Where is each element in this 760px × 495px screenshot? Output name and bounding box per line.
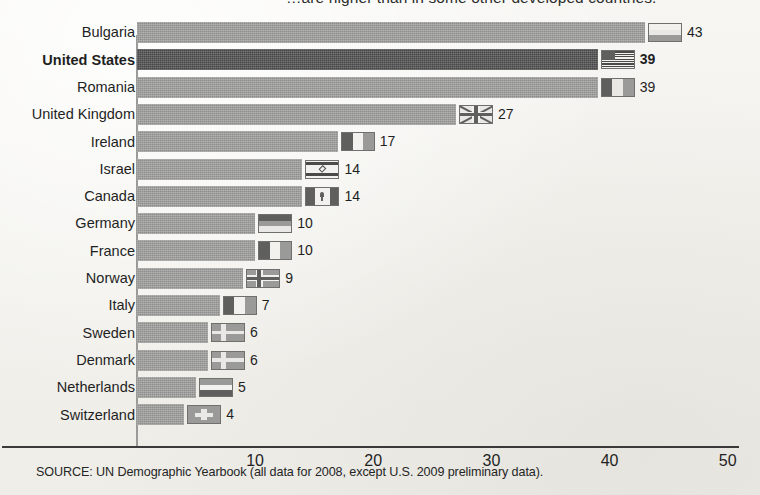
bar-value-label: 27 xyxy=(498,107,514,121)
bar-value-label: 7 xyxy=(262,298,270,312)
bar-row: Denmark6 xyxy=(0,347,760,374)
bar-value-label: 43 xyxy=(687,25,703,39)
bar xyxy=(137,22,645,43)
bar-value-label: 10 xyxy=(297,216,313,230)
bar xyxy=(137,104,456,125)
bar xyxy=(137,404,184,425)
bar xyxy=(137,213,255,234)
bar xyxy=(137,322,208,343)
headline-strip: …are higher than in some other developed… xyxy=(0,0,760,16)
bar-row: Norway9 xyxy=(0,265,760,292)
bar-row-label: Romania xyxy=(0,80,135,95)
bar-row-label: United Kingdom xyxy=(0,107,135,122)
flag-france-icon xyxy=(258,241,292,260)
bar xyxy=(137,240,255,261)
flag-united-kingdom-icon xyxy=(459,105,493,124)
flag-sweden-icon xyxy=(211,323,245,342)
bar-value-label: 5 xyxy=(238,380,246,394)
bar-row-label: Bulgaria xyxy=(0,25,135,40)
bar-row: Israel14 xyxy=(0,156,760,183)
bar xyxy=(137,295,220,316)
bar-value-label: 6 xyxy=(250,353,258,367)
bar xyxy=(137,159,302,180)
bar-value-label: 14 xyxy=(344,162,360,176)
flag-norway-icon xyxy=(246,269,280,288)
bar-row: United States39 xyxy=(0,46,760,73)
x-axis-tick-label: 40 xyxy=(588,452,632,470)
bar-row: Italy7 xyxy=(0,292,760,319)
bar-row-label: Denmark xyxy=(0,353,135,368)
flag-italy-icon xyxy=(223,296,257,315)
bar-row: Germany10 xyxy=(0,210,760,237)
bar-row-label: Norway xyxy=(0,271,135,286)
bar-value-label: 39 xyxy=(640,52,656,66)
bar-value-label: 39 xyxy=(640,80,656,94)
bar-row: United Kingdom27 xyxy=(0,101,760,128)
bar-row-label: Netherlands xyxy=(0,380,135,395)
flag-germany-icon xyxy=(258,214,292,233)
bar xyxy=(137,268,243,289)
bar-row: Netherlands5 xyxy=(0,374,760,401)
bar-value-label: 4 xyxy=(226,407,234,421)
bar-row: Switzerland4 xyxy=(0,401,760,428)
bar xyxy=(137,131,338,152)
bar xyxy=(137,350,208,371)
bar-row-label: United States xyxy=(0,53,135,68)
x-axis-line xyxy=(2,446,739,448)
flag-netherlands-icon xyxy=(199,378,233,397)
bar-row: Sweden6 xyxy=(0,319,760,346)
bar-row-label: Sweden xyxy=(0,326,135,341)
bar-value-label: 6 xyxy=(250,325,258,339)
chart-headline: …are higher than in some other developed… xyxy=(286,0,656,7)
bar-value-label: 17 xyxy=(380,134,396,148)
flag-bulgaria-icon xyxy=(648,23,682,42)
flag-switzerland-icon xyxy=(187,405,221,424)
bar-row-label: France xyxy=(0,244,135,259)
bar-row: Canada14 xyxy=(0,183,760,210)
bar xyxy=(137,186,302,207)
bar-row-label: Canada xyxy=(0,189,135,204)
flag-denmark-icon xyxy=(211,351,245,370)
x-axis-tick-label: 50 xyxy=(706,452,750,470)
bar-value-label: 9 xyxy=(285,271,293,285)
flag-romania-icon xyxy=(601,78,635,97)
bar-chart: Bulgaria43United States39Romania39United… xyxy=(0,16,760,436)
flag-canada-icon xyxy=(305,187,339,206)
bar xyxy=(137,49,598,70)
bar-value-label: 14 xyxy=(344,189,360,203)
flag-ireland-icon xyxy=(341,132,375,151)
bar-row-label: Switzerland xyxy=(0,408,135,423)
bar-row-label: Germany xyxy=(0,216,135,231)
bar-row: Ireland17 xyxy=(0,128,760,155)
flag-united-states-icon xyxy=(601,50,635,69)
bar-row: Bulgaria43 xyxy=(0,19,760,46)
source-note: SOURCE: UN Demographic Yearbook (all dat… xyxy=(36,465,543,479)
bar xyxy=(137,77,598,98)
bar-row: France10 xyxy=(0,237,760,264)
bar-value-label: 10 xyxy=(297,243,313,257)
bar xyxy=(137,377,196,398)
flag-israel-icon xyxy=(305,160,339,179)
bar-row-label: Ireland xyxy=(0,135,135,150)
bar-row-label: Italy xyxy=(0,298,135,313)
bar-row: Romania39 xyxy=(0,74,760,101)
bar-row-label: Israel xyxy=(0,162,135,177)
